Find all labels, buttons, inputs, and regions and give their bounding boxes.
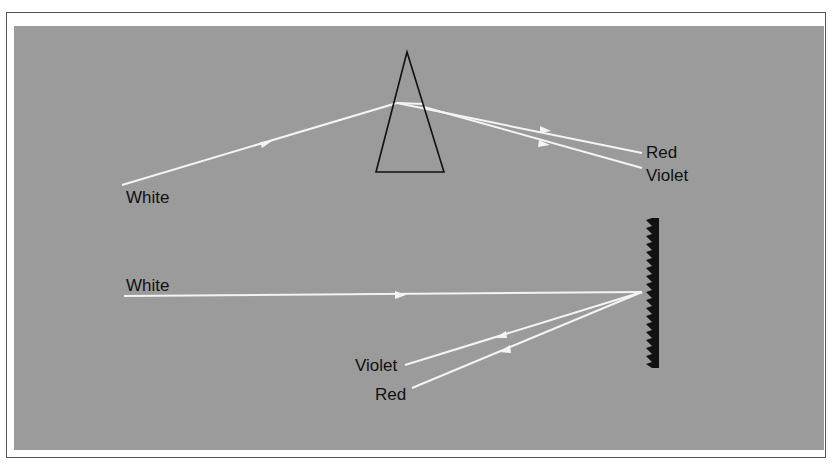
arrowhead-icon [395, 291, 406, 299]
violet-output-ray-top [424, 107, 642, 168]
violet-diffracted-ray [405, 292, 642, 365]
red-diffracted-ray [412, 292, 642, 388]
label-white-bottom: White [126, 277, 169, 294]
label-violet-bottom: Violet [355, 357, 397, 374]
arrowhead-icon [260, 141, 272, 148]
label-violet-top: Violet [646, 167, 688, 184]
diffraction-grating [646, 218, 659, 368]
label-red-top: Red [646, 144, 677, 161]
incident-white-ray-bottom [124, 292, 642, 296]
label-red-bottom: Red [375, 386, 406, 403]
prism-section [122, 52, 642, 185]
dispersion-diagram [0, 0, 834, 464]
arrowhead-icon [499, 345, 511, 353]
incident-white-ray-top [122, 103, 397, 185]
arrowhead-icon [495, 331, 507, 338]
label-white-top: White [126, 189, 169, 206]
prism [376, 52, 444, 172]
arrowhead-icon [540, 126, 551, 133]
